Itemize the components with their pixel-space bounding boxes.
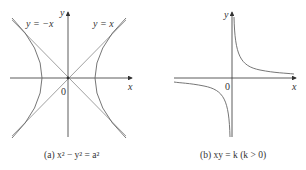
x-axis-label: x <box>291 81 297 92</box>
y-axis-label: y <box>223 9 229 20</box>
figure-a-plot: y x 0 y = −x y = x <box>10 7 133 138</box>
origin-label: 0 <box>225 81 230 92</box>
asymptote-right-label: y = x <box>92 18 114 29</box>
x-axis-label: x <box>127 81 133 92</box>
hyperbola-third-quadrant <box>174 82 230 137</box>
origin-label: 0 <box>61 86 66 97</box>
asymptote-left-label: y = −x <box>25 18 54 29</box>
figure-a-caption: (a) x² − y² = a² <box>44 150 99 160</box>
figure-b-plot: y x 0 <box>174 9 297 137</box>
figure-svg: y x 0 y = −x y = x y x 0 <box>0 0 306 170</box>
hyperbola-first-quadrant <box>234 17 294 74</box>
y-axis-label: y <box>59 7 65 18</box>
figure-b-caption: (b) xy = k (k > 0) <box>200 150 266 160</box>
